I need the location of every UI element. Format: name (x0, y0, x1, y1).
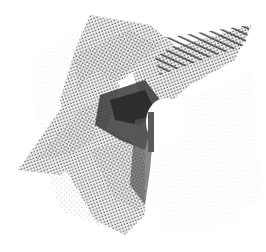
hole-edge (148, 112, 154, 152)
point-cloud-render (0, 0, 266, 252)
point-cloud-canvas (0, 0, 266, 252)
